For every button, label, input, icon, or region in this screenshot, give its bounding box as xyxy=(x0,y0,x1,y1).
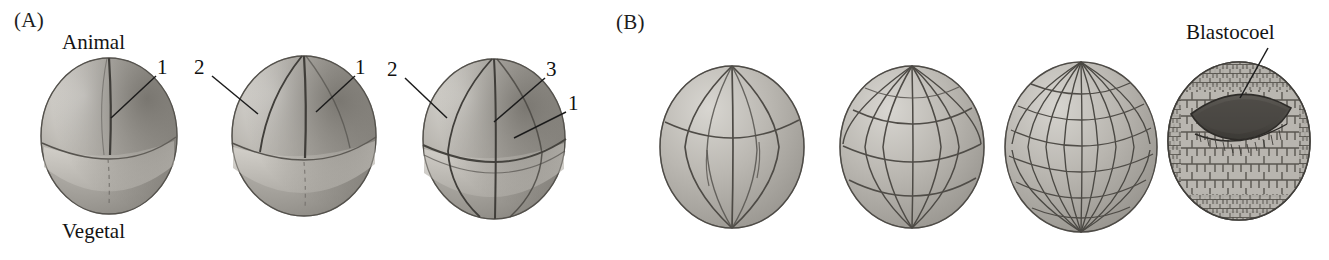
late-cleavage-embryo xyxy=(1000,58,1162,236)
label-3-eight-cell: 3 xyxy=(546,57,557,82)
label-1-eight-cell: 1 xyxy=(568,91,579,116)
label-1-two-cell: 1 xyxy=(157,55,168,80)
label-1-four-cell: 1 xyxy=(355,55,366,80)
panel-b-letter: (B) xyxy=(616,10,645,35)
panel-a-letter: (A) xyxy=(14,8,44,33)
label-2-eight-cell: 2 xyxy=(387,57,398,82)
blastula-section xyxy=(1165,60,1315,224)
figure-cleavage-stages: (A) Animal Vegetal xyxy=(0,0,1329,260)
vegetal-pole-label: Vegetal xyxy=(62,219,125,244)
animal-pole-label: Animal xyxy=(62,30,125,55)
label-2-four-cell: 2 xyxy=(194,55,205,80)
blastocoel-label: Blastocoel xyxy=(1186,20,1275,45)
mid-cleavage-embryo xyxy=(835,62,989,232)
early-cleavage-embryo xyxy=(655,62,809,232)
